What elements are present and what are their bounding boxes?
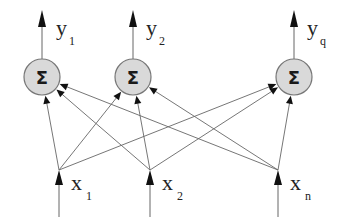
connection-line bbox=[278, 99, 290, 170]
output-subscript-2: 2 bbox=[159, 34, 165, 48]
output-label-y1: y bbox=[56, 15, 67, 40]
input-subscript-2: 2 bbox=[177, 189, 183, 203]
arrow-up-icon bbox=[55, 170, 63, 185]
output-label-yq: y bbox=[307, 15, 318, 40]
sigma-icon: Σ bbox=[288, 67, 300, 88]
arrow-up-icon bbox=[38, 10, 46, 27]
arrow-up-icon bbox=[274, 170, 282, 185]
input-label-x1: x bbox=[71, 170, 82, 195]
output-subscript-q: q bbox=[320, 34, 326, 48]
arrow-up-icon bbox=[290, 10, 298, 27]
connection-line bbox=[150, 89, 276, 170]
arrowhead-icon bbox=[149, 87, 158, 94]
input-label-xn: x bbox=[290, 170, 301, 195]
connection-lines bbox=[43, 84, 292, 170]
sigma-icon: Σ bbox=[36, 67, 48, 88]
output-subscript-1: 1 bbox=[69, 34, 75, 48]
summation-nodes: ΣΣΣ bbox=[24, 59, 312, 95]
arrow-up-icon bbox=[129, 10, 137, 27]
arrowhead-icon bbox=[286, 96, 293, 104]
arrowhead-icon bbox=[43, 96, 50, 104]
input-subscript-1: 1 bbox=[86, 189, 92, 203]
sigma-icon: Σ bbox=[127, 67, 139, 88]
arrow-up-icon bbox=[146, 170, 154, 185]
connection-line bbox=[59, 94, 119, 170]
input-label-x2: x bbox=[162, 170, 173, 195]
connection-line bbox=[46, 99, 59, 170]
output-arrows bbox=[38, 10, 298, 59]
connection-line bbox=[152, 89, 278, 170]
output-label-y2: y bbox=[146, 15, 157, 40]
arrowhead-icon bbox=[113, 92, 121, 100]
arrowhead-icon bbox=[134, 96, 141, 104]
network-diagram: ΣΣΣ y 1 y 2 y q x 1 x 2 x n bbox=[0, 0, 353, 217]
input-subscript-n: n bbox=[305, 189, 311, 203]
arrowhead-icon bbox=[60, 84, 69, 91]
